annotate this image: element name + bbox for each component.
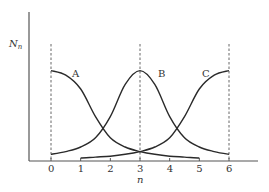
y-axis-label: Nn xyxy=(8,38,23,51)
curve-c-label: C xyxy=(202,68,210,79)
x-tick-labels: 0123456 xyxy=(48,163,232,174)
x-tick-label: 5 xyxy=(196,163,202,174)
x-axis-label: n xyxy=(137,174,143,185)
x-tick-label: 1 xyxy=(78,163,84,174)
x-tick-label: 6 xyxy=(226,163,232,174)
chart-canvas: 0123456 A B C Nn n xyxy=(0,0,269,192)
curve-b-label: B xyxy=(158,68,165,79)
x-tick-label: 3 xyxy=(137,163,143,174)
curve-a-label: A xyxy=(71,68,80,79)
x-tick-label: 4 xyxy=(167,163,173,174)
x-tick-label: 0 xyxy=(48,163,54,174)
x-tick-label: 2 xyxy=(107,163,113,174)
